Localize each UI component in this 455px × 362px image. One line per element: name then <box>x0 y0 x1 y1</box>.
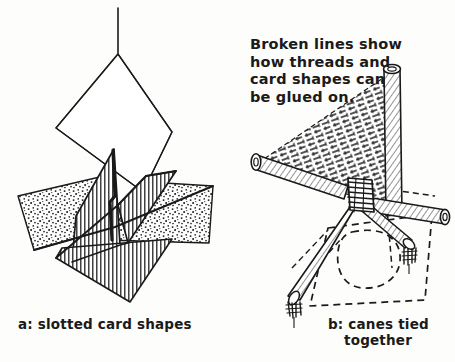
caption-b-line2: together <box>328 332 429 348</box>
caption-b-line1: b: canes tied <box>328 316 429 332</box>
figure-page: Broken lines show how threads and card s… <box>0 0 455 362</box>
caption-canes-tied-together: b: canes tiedtogether <box>328 316 429 348</box>
caption-slotted-card-shapes: a: slotted card shapes <box>18 316 192 332</box>
binding-knot <box>348 178 374 212</box>
broken-lines-note: Broken lines show how threads and card s… <box>250 36 402 107</box>
